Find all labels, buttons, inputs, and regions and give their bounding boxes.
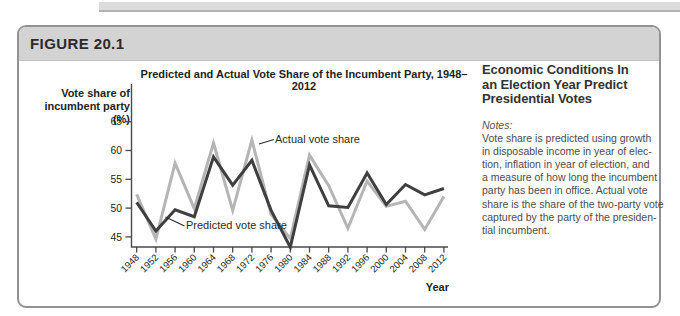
sidebar-heading: Economic Conditions In an Election Year … <box>482 63 634 107</box>
x-tick-label: 1992 <box>330 252 353 275</box>
sidebar-heading-line1: Economic Conditions In <box>482 63 634 78</box>
notes-line: captured by the party of the presiden- <box>482 211 634 224</box>
y-tick-label: 45 <box>111 232 123 243</box>
x-tick-label: 2004 <box>387 252 410 275</box>
notes-line: Vote share is predicted using growth <box>482 132 634 145</box>
y-tick-label: 55 <box>111 174 123 185</box>
sidebar-caption: Economic Conditions In an Election Year … <box>482 63 634 237</box>
annotation-actual-vote-share: Actual vote share <box>275 133 360 145</box>
x-tick-label: 1952 <box>138 252 161 275</box>
page-top-strip <box>99 2 680 12</box>
sidebar-heading-line2: an Election Year Predict <box>482 78 634 93</box>
x-tick-label: 2008 <box>406 252 429 275</box>
vote-share-line-chart: 4550556065194819521956196019641968197219… <box>75 80 475 305</box>
y-tick-label: 60 <box>111 145 123 156</box>
predicted-annotation-leader <box>166 217 185 226</box>
x-tick-label: 2000 <box>368 252 391 275</box>
x-tick-label: 1984 <box>291 252 314 275</box>
sidebar-heading-line3: Presidential Votes <box>482 92 634 107</box>
actual-annotation-leader <box>259 140 274 145</box>
x-tick-label: 1964 <box>195 252 218 275</box>
actual-vote-share-line <box>137 140 444 239</box>
figure-number-label: FIGURE 20.1 <box>30 35 124 52</box>
notes-line: a measure of how long the incumbent <box>482 171 634 184</box>
y-tick-label: 65 <box>111 116 123 127</box>
x-tick-label: 1972 <box>234 252 257 275</box>
x-tick-label: 1976 <box>253 252 276 275</box>
chart-axes <box>132 84 449 247</box>
x-tick-label: 1988 <box>310 252 333 275</box>
notes-line: party has been in office. Actual vote <box>482 184 634 197</box>
x-tick-label: 1956 <box>157 252 180 275</box>
x-tick-label: 1960 <box>176 252 199 275</box>
annotation-predicted-vote-share: Predicted vote share <box>186 219 287 231</box>
x-tick-label: 1968 <box>214 252 237 275</box>
x-tick-label: 1948 <box>118 252 141 275</box>
sidebar-notes-label: Notes: <box>482 119 634 131</box>
x-axis-title: Year <box>349 281 449 293</box>
x-tick-label: 1996 <box>349 252 372 275</box>
notes-line: tial incumbent. <box>482 224 634 237</box>
notes-line: share is the share of the two-party vote <box>482 198 634 211</box>
figure-header-bar: FIGURE 20.1 <box>19 27 659 61</box>
sidebar-notes-text: Vote share is predicted using growth in … <box>482 132 634 238</box>
notes-line: in disposable income in year of elec- <box>482 145 634 158</box>
x-tick-label: 1980 <box>272 252 295 275</box>
notes-line: tion, inflation in year of election, and <box>482 158 634 171</box>
x-tick-label: 2012 <box>426 252 449 275</box>
y-tick-label: 50 <box>111 203 123 214</box>
